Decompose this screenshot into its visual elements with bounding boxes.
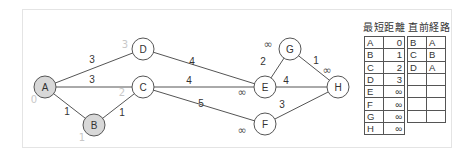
distance-row: G∞: [365, 110, 405, 122]
distance-node: B: [365, 49, 384, 61]
route-node: C: [408, 49, 427, 61]
edge-weight-label: 4: [189, 56, 195, 67]
route-row: DA: [408, 61, 446, 73]
route-node: B: [408, 37, 427, 49]
distance-value: 2: [384, 61, 405, 73]
distance-row: D3: [365, 73, 405, 85]
distance-node: E: [365, 86, 384, 98]
distance-node: G: [365, 110, 384, 122]
node-A: A: [34, 76, 56, 98]
route-prev: [427, 110, 446, 122]
node-E: E: [254, 76, 276, 98]
edge-weight-label: 1: [313, 55, 319, 66]
shortest-distance-title: 最短距離: [363, 19, 405, 34]
node-distance-label: ∞: [237, 86, 246, 99]
route-prev: [427, 73, 446, 85]
node-distance-label: ∞: [263, 38, 272, 51]
node-distance-label: 2: [119, 87, 125, 98]
node-label: H: [334, 82, 341, 93]
route-node: D: [408, 61, 427, 73]
route-row: BA: [408, 37, 446, 49]
route-node: [408, 110, 427, 122]
shortest-distance-table: A0B1C2D3E∞F∞G∞H∞: [364, 36, 405, 135]
node-distance-label: 1: [79, 132, 85, 143]
previous-route-title: 直前経路: [408, 19, 450, 34]
node-C: C: [132, 76, 154, 98]
route-row: [408, 98, 446, 110]
node-label: E: [262, 82, 269, 93]
node-H: H: [327, 76, 349, 98]
distance-value: 3: [384, 73, 405, 85]
distance-value: ∞: [384, 110, 405, 122]
node-F: F: [254, 113, 276, 135]
edge-D-E: [143, 49, 265, 87]
edge-weight-label: 5: [198, 98, 204, 109]
node-distance-label: 3: [122, 39, 128, 50]
distance-value: ∞: [384, 86, 405, 98]
edge-weight-label: 4: [186, 75, 192, 86]
distance-row: H∞: [365, 123, 405, 135]
distance-row: C2: [365, 61, 405, 73]
distance-value: ∞: [384, 98, 405, 110]
distance-node: A: [365, 37, 384, 49]
route-prev: B: [427, 49, 446, 61]
edge-F-H: [265, 87, 338, 124]
distance-node: D: [365, 73, 384, 85]
distance-row: A0: [365, 37, 405, 49]
node-G: G: [279, 38, 301, 60]
route-row: [408, 73, 446, 85]
route-prev: A: [427, 37, 446, 49]
route-row: [408, 86, 446, 98]
distance-value: 1: [384, 49, 405, 61]
edge-weight-label: 4: [283, 75, 289, 86]
distance-row: B1: [365, 49, 405, 61]
route-node: [408, 98, 427, 110]
node-D: D: [132, 38, 154, 60]
distance-node: H: [365, 123, 384, 135]
edge-weight-label: 3: [279, 99, 285, 110]
node-label: B: [91, 120, 98, 131]
node-distance-label: ∞: [237, 124, 246, 137]
route-row: [408, 110, 446, 122]
edge-weight-label: 1: [64, 106, 70, 117]
distance-node: C: [365, 61, 384, 73]
node-distance-label: ∞: [322, 64, 331, 77]
node-distance-label: 0: [31, 94, 37, 105]
route-node: [408, 86, 427, 98]
previous-route-table: BACBDA: [407, 36, 446, 123]
distance-value: ∞: [384, 123, 405, 135]
edge-weight-label: 1: [119, 107, 125, 118]
route-node: [408, 73, 427, 85]
node-label: A: [42, 82, 49, 93]
node-label: C: [139, 82, 146, 93]
route-prev: A: [427, 61, 446, 73]
edge-weight-label: 3: [89, 54, 95, 65]
node-label: D: [139, 44, 146, 55]
route-row: CB: [408, 49, 446, 61]
node-B: B: [83, 114, 105, 136]
distance-node: F: [365, 98, 384, 110]
distance-value: 0: [384, 37, 405, 49]
distance-row: E∞: [365, 86, 405, 98]
node-label: F: [262, 119, 268, 130]
edge-C-F: [143, 87, 265, 124]
edge-weight-label: 3: [89, 74, 95, 85]
route-prev: [427, 98, 446, 110]
node-label: G: [286, 44, 294, 55]
route-prev: [427, 86, 446, 98]
distance-row: F∞: [365, 98, 405, 110]
edge-weight-label: 2: [260, 56, 266, 67]
